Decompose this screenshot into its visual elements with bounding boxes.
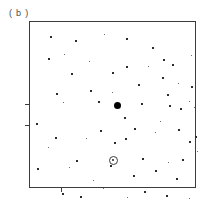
scatter-point [55, 137, 57, 139]
scatter-point [114, 142, 116, 144]
scatter-point [62, 193, 64, 195]
circled-point-marker [109, 156, 118, 165]
scatter-point [126, 66, 128, 68]
scatter-point [155, 132, 156, 133]
scatter-point [80, 196, 82, 198]
scatter-point [75, 40, 77, 42]
scatter-point [189, 198, 190, 199]
scatter-point [90, 90, 92, 92]
scatter-point [155, 170, 157, 172]
scatter-point [98, 101, 100, 103]
scatter-point [176, 178, 178, 180]
scatter-point [103, 188, 104, 189]
scatter-point [48, 147, 49, 148]
panel-label: ( b ) [9, 8, 29, 18]
scatter-point [191, 86, 193, 88]
scatter-point [93, 180, 94, 181]
scatter-point [89, 61, 90, 62]
scatter-point [138, 84, 140, 86]
scatter-point [126, 38, 128, 40]
scatter-point [194, 107, 195, 108]
scatter-point [178, 129, 180, 131]
scatter-point [104, 34, 105, 35]
scatter-point [180, 108, 182, 110]
scatter-point [134, 128, 136, 130]
scatter-point [56, 93, 58, 95]
scatter-point [112, 72, 114, 74]
center-bright-point [114, 102, 121, 109]
scatter-point [189, 141, 191, 143]
scatter-point [160, 121, 161, 122]
scatter-point [112, 92, 113, 93]
scatter-point [167, 94, 169, 96]
scatter-point [48, 58, 50, 60]
scatter-point [142, 158, 144, 160]
scatter-point [127, 197, 128, 198]
scatter-point [124, 117, 126, 119]
scatter-point [172, 64, 174, 66]
scatter-point [166, 195, 168, 197]
scatter-point [189, 101, 190, 102]
scatter-point [163, 59, 165, 61]
scatter-point [125, 138, 127, 140]
axis-tick-left [25, 104, 29, 105]
axis-tick-left [25, 125, 29, 126]
scatter-point [178, 83, 179, 84]
scatter-point [144, 191, 146, 193]
scatter-point [76, 160, 78, 162]
scatter-point [37, 168, 39, 170]
scatter-point [195, 136, 197, 138]
scatter-point [182, 159, 184, 161]
scatter-point [110, 165, 112, 167]
plot-area [29, 21, 196, 188]
scatter-point [162, 77, 164, 79]
scatter-point [148, 66, 149, 67]
scatter-point [50, 36, 52, 38]
scatter-point [64, 54, 65, 55]
scatter-point [100, 130, 102, 132]
scatter-point [86, 138, 87, 139]
scatter-point [169, 105, 171, 107]
scatter-point [36, 123, 38, 125]
scatter-point [71, 73, 73, 75]
scatter-point [133, 175, 135, 177]
axis-tick-bottom [61, 188, 62, 192]
scatter-point [141, 103, 143, 105]
scatter-figure: ( b ) [0, 0, 212, 210]
scatter-point [152, 47, 154, 49]
scatter-point [191, 55, 192, 56]
scatter-point [168, 162, 169, 163]
scatter-point [69, 167, 70, 168]
scatter-point [197, 151, 198, 152]
scatter-point [63, 102, 64, 103]
